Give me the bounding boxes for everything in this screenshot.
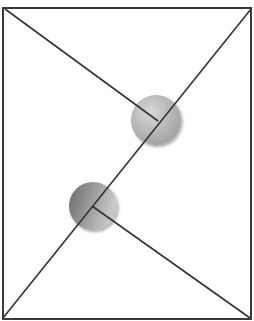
diagram-svg: [0, 0, 254, 321]
diagram-canvas: [0, 0, 254, 321]
long-diagonal-line: [3, 9, 251, 318]
lower-right-line: [92, 206, 250, 318]
upper-left-line: [5, 9, 158, 121]
